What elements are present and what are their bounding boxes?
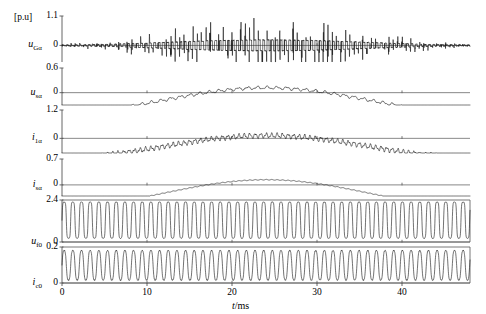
x-axis-title: t/ms xyxy=(232,300,249,311)
y-tick-i_c0-0p2: 0.2 xyxy=(34,241,58,251)
trace-i_sa xyxy=(62,179,470,196)
panel-u_f0 xyxy=(60,200,471,243)
x-tick-10: 10 xyxy=(132,287,162,297)
y-tick-u_Ga-1p1: 1.1 xyxy=(34,10,58,20)
y-tick-i_1a-0: 0 xyxy=(34,132,58,142)
y-tick-i_c0-0: 0 xyxy=(34,277,58,287)
y-tick-i_sa-0: 0 xyxy=(34,178,58,188)
trace-i_1a xyxy=(62,133,470,153)
x-tick-30: 30 xyxy=(302,287,332,297)
panel-i_c0 xyxy=(60,247,471,284)
trace-u_f0 xyxy=(62,202,470,239)
y-tick-u_f0-2p4: 2.4 xyxy=(34,194,58,204)
x-axis xyxy=(62,283,402,286)
y-tick-i_sa-0p7: 0.7 xyxy=(34,153,58,163)
x-tick-0: 0 xyxy=(47,287,77,297)
trace-u_sa xyxy=(62,86,470,105)
trace-u_Ga xyxy=(62,18,470,62)
unit-label: [p.u] xyxy=(14,12,32,22)
x-tick-40: 40 xyxy=(387,287,417,297)
panel-u_Ga xyxy=(60,16,471,62)
trace-i_c0 xyxy=(62,250,470,280)
panel-u_sa xyxy=(60,68,471,105)
panel-i_1a xyxy=(60,110,471,153)
y-tick-u_sa-0: 0 xyxy=(34,86,58,96)
panel-i_sa xyxy=(60,159,471,196)
y-tick-u_sa-0p6: 0.6 xyxy=(34,62,58,72)
waveform-figure xyxy=(0,0,486,314)
y-tick-u_Ga-0: 0 xyxy=(34,39,58,49)
x-tick-20: 20 xyxy=(217,287,247,297)
y-tick-i_1a-1p2: 1.2 xyxy=(34,104,58,114)
